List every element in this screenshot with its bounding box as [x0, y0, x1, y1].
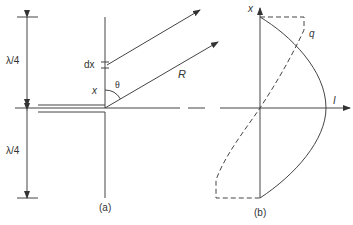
q-label: q [309, 29, 315, 39]
dx-text: dx [84, 59, 95, 70]
theta-label: θ [115, 80, 120, 90]
lower-quarter-wave-label: λ/4 [6, 146, 19, 156]
x-label-a: x [92, 86, 97, 96]
I-axis-label: I [333, 96, 336, 106]
theta-arc [105, 90, 121, 99]
R-label: R [178, 69, 186, 80]
upper-quarter-wave-label: λ/4 [6, 56, 19, 66]
caption-a: (a) [99, 203, 111, 213]
ray-R [105, 42, 218, 108]
x-axis-label-b: x [248, 4, 253, 14]
caption-b: (b) [254, 208, 266, 218]
ray-from-dx [107, 10, 200, 65]
dipole-antenna-diagram [0, 0, 353, 225]
dx-label: dx [84, 60, 95, 70]
